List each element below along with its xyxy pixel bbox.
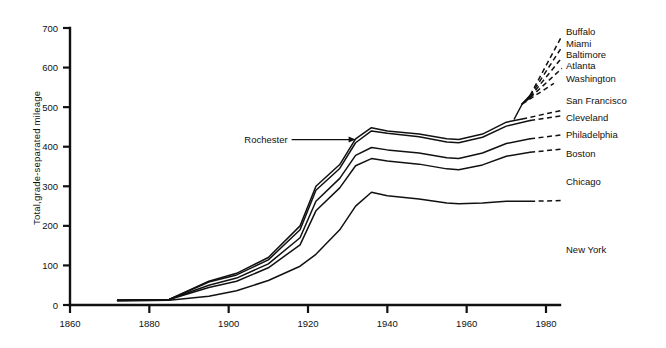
y-tick-label: 300 <box>42 181 58 192</box>
legend-label-boston: Boston <box>566 148 596 159</box>
legend-label-buffalo: Buffalo <box>566 26 595 37</box>
series-solid-segment <box>514 104 522 119</box>
y-tick-label: 600 <box>42 62 58 73</box>
legend-group: BuffaloMiamiBaltimoreAtlantaWashingtonSa… <box>566 26 627 255</box>
series-san-francisco <box>118 110 562 300</box>
series-buffalo <box>522 36 562 104</box>
y-tick-label: 100 <box>42 260 58 271</box>
line-chart: 0100200300400500600700 18601880190019201… <box>0 0 666 348</box>
series-projection-segment <box>530 201 562 202</box>
legend-label-philadelphia: Philadelphia <box>566 129 618 140</box>
series-solid-segment <box>118 121 531 301</box>
x-tick-label: 1980 <box>535 318 556 329</box>
x-tick-label: 1900 <box>218 318 239 329</box>
y-tick-label: 400 <box>42 141 58 152</box>
series-projection-segment <box>530 135 562 139</box>
x-tick-label-group: 1860188019001920194019601980 <box>59 318 556 329</box>
x-tick-label: 1920 <box>297 318 318 329</box>
y-tick-label: 500 <box>42 102 58 113</box>
series-atlanta <box>522 68 562 104</box>
series-solid-segment <box>118 152 531 300</box>
series-projection-segment <box>530 149 562 152</box>
legend-label-baltimore: Baltimore <box>566 49 606 60</box>
series-cleveland <box>118 116 562 300</box>
x-tick-label: 1880 <box>139 318 160 329</box>
legend-label-washington: Washington <box>566 73 616 84</box>
x-tick-label: 1860 <box>59 318 80 329</box>
y-tick-label: 0 <box>53 300 58 311</box>
chart-container: 0100200300400500600700 18601880190019201… <box>0 0 666 348</box>
y-tick-label-group: 0100200300400500600700 <box>42 23 58 311</box>
series-projection-segment <box>530 58 562 97</box>
x-axis: 1860188019001920194019601980 <box>59 305 560 329</box>
series-solid-segment <box>118 139 531 300</box>
series-projection-segment <box>522 110 562 119</box>
series-miami <box>522 47 562 104</box>
legend-label-atlanta: Atlanta <box>566 60 596 71</box>
legend-label-miami: Miami <box>566 38 591 49</box>
legend-label-cleveland: Cleveland <box>566 112 608 123</box>
y-tick-label: 700 <box>42 23 58 34</box>
legend-label-new-york: New York <box>566 244 606 255</box>
series-projection-segment <box>530 36 562 95</box>
annotation-label-rochester: Rochester <box>244 134 287 145</box>
legend-label-chicago: Chicago <box>566 176 601 187</box>
series-group <box>118 36 562 301</box>
y-axis-title: Total,grade-separated mileage <box>31 91 42 225</box>
series-solid-segment <box>118 192 531 301</box>
legend-label-san-francisco: San Francisco <box>566 95 627 106</box>
series-boston <box>118 149 562 300</box>
series-chicago <box>118 192 562 301</box>
series-solid-segment <box>118 119 523 300</box>
x-tick-label: 1940 <box>377 318 398 329</box>
y-tick-label: 200 <box>42 220 58 231</box>
x-tick-label: 1960 <box>456 318 477 329</box>
annotation-group: Rochester <box>244 134 355 145</box>
y-axis: 0100200300400500600700 <box>42 23 70 311</box>
